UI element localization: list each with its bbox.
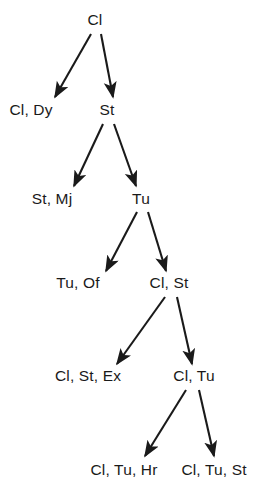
tree-edge-arrow-icon	[177, 297, 192, 364]
tree-node-n10: Cl, Tu, St	[181, 462, 246, 478]
tree-node-n9: Cl, Tu, Hr	[91, 462, 158, 478]
tree-edge-arrow-icon	[114, 124, 136, 186]
tree-node-n1: Cl, Dy	[9, 102, 52, 118]
tree-node-n4: Tu	[132, 191, 150, 207]
tree-edge-arrow-icon	[145, 390, 186, 456]
tree-edge-arrow-icon	[148, 212, 166, 271]
tree-node-n7: Cl, St, Ex	[55, 368, 121, 384]
tree-node-n3: St, Mj	[32, 191, 73, 207]
tree-edge-arrow-icon	[117, 297, 165, 364]
tree-node-n2: St	[100, 102, 115, 118]
tree-edge-arrow-icon	[55, 34, 91, 97]
tree-node-n5: Tu, Of	[56, 275, 99, 291]
tree-edge-arrow-icon	[101, 34, 113, 97]
tree-node-n8: Cl, Tu	[173, 368, 214, 384]
tree-node-n6: Cl, St	[150, 275, 189, 291]
tree-edges	[55, 34, 214, 456]
tree-node-n0: Cl	[88, 12, 103, 28]
derivation-tree-diagram: ClCl, DyStSt, MjTuTu, OfCl, StCl, St, Ex…	[0, 0, 260, 493]
tree-edge-arrow-icon	[199, 390, 214, 456]
tree-edge-arrow-icon	[106, 212, 137, 271]
tree-edge-layer	[0, 0, 260, 493]
tree-edge-arrow-icon	[74, 124, 103, 186]
